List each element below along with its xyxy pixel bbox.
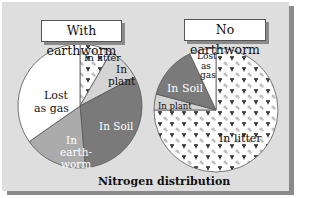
- label-plant-2: plant: [108, 75, 136, 87]
- title-with-earthworm: With earthworm: [41, 20, 122, 42]
- label-gas-3: gas: [200, 70, 216, 80]
- label-worm-2: earth-: [60, 146, 92, 158]
- label-soil: In Soil: [167, 82, 204, 95]
- label-worm-1: In: [66, 134, 77, 146]
- label-gas-2: as gas: [34, 102, 69, 115]
- title-no-earthworm: No earthworm: [184, 19, 266, 41]
- label-soil: In Soil: [99, 120, 134, 132]
- label-plant: In plant: [158, 101, 192, 111]
- label-plant-1: In: [116, 63, 127, 75]
- label-gas-1: Lost: [44, 89, 69, 102]
- label-worm-3: worm: [61, 158, 91, 170]
- label-litter: In litter: [219, 132, 262, 145]
- chart-caption: Nitrogen distribution: [98, 175, 230, 188]
